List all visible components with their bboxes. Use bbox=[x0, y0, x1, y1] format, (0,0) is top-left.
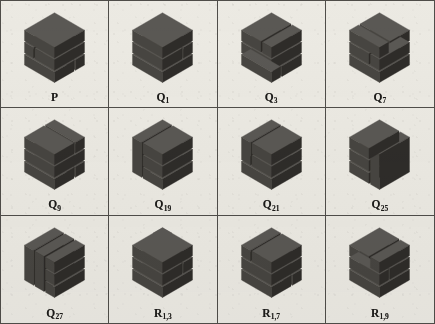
block-assembly-icon bbox=[326, 108, 434, 199]
block-assembly-icon bbox=[218, 1, 325, 92]
block-assembly-svg bbox=[238, 9, 305, 86]
label-subscript: 27 bbox=[55, 312, 63, 321]
grid-cell-p: P bbox=[1, 1, 109, 108]
label-subscript: 9 bbox=[57, 204, 61, 213]
label-base: Q bbox=[263, 198, 272, 210]
cell-label-q27: Q27 bbox=[46, 308, 63, 324]
block-assembly-svg bbox=[346, 224, 413, 301]
grid-cell-q27: Q27 bbox=[1, 216, 109, 323]
label-base: Q bbox=[155, 198, 164, 210]
label-subscript: 1,7 bbox=[271, 312, 280, 321]
grid-cell-r1-9: R1,9 bbox=[326, 216, 434, 323]
figure-sheet: PQ1Q3Q7Q9Q19Q21Q25Q27R1,3R1,7R1,9 bbox=[0, 0, 435, 324]
label-subscript: 1 bbox=[166, 96, 170, 105]
label-subscript: 21 bbox=[272, 204, 280, 213]
label-base: Q bbox=[372, 198, 381, 210]
label-subscript: 7 bbox=[383, 96, 387, 105]
block-assembly-svg bbox=[21, 9, 88, 86]
block-assembly-svg bbox=[21, 116, 88, 193]
label-subscript: 3 bbox=[274, 96, 278, 105]
cell-label-q9: Q9 bbox=[48, 199, 61, 215]
cell-label-q25: Q25 bbox=[372, 199, 389, 215]
label-subscript: 25 bbox=[381, 204, 389, 213]
block-assembly-svg bbox=[129, 224, 196, 301]
block-assembly-icon bbox=[326, 216, 434, 308]
grid-cell-q9: Q9 bbox=[1, 108, 109, 215]
block-assembly-svg bbox=[238, 116, 305, 193]
cell-label-q21: Q21 bbox=[263, 199, 280, 215]
cell-label-p: P bbox=[51, 92, 58, 108]
label-subscript: 1,3 bbox=[162, 312, 171, 321]
block-assembly-icon bbox=[109, 216, 216, 308]
block-assembly-icon bbox=[109, 108, 216, 199]
grid-cell-q1: Q1 bbox=[109, 1, 217, 108]
block-assembly-icon bbox=[218, 216, 325, 308]
label-subscript: 1,9 bbox=[379, 312, 388, 321]
grid-cell-q21: Q21 bbox=[218, 108, 326, 215]
cell-label-r1-3: R1,3 bbox=[154, 308, 172, 324]
cell-label-r1-9: R1,9 bbox=[371, 308, 389, 324]
block-assembly-svg bbox=[346, 9, 413, 86]
block-assembly-svg bbox=[346, 116, 413, 193]
cell-label-q19: Q19 bbox=[155, 199, 172, 215]
grid-cell-q19: Q19 bbox=[109, 108, 217, 215]
block-assembly-icon bbox=[1, 108, 108, 199]
cell-label-q1: Q1 bbox=[156, 92, 169, 108]
label-base: Q bbox=[48, 198, 57, 210]
label-base: P bbox=[51, 91, 58, 103]
grid-cell-r1-7: R1,7 bbox=[218, 216, 326, 323]
block-assembly-svg bbox=[21, 224, 88, 301]
grid-cell-q3: Q3 bbox=[218, 1, 326, 108]
cell-label-q3: Q3 bbox=[265, 92, 278, 108]
block-assembly-icon bbox=[218, 108, 325, 199]
block-assembly-svg bbox=[238, 224, 305, 301]
block-assembly-icon bbox=[1, 216, 108, 308]
block-assembly-icon bbox=[1, 1, 108, 92]
grid-cell-q25: Q25 bbox=[326, 108, 434, 215]
label-base: Q bbox=[265, 91, 274, 103]
label-base: R bbox=[262, 307, 271, 319]
cell-label-q7: Q7 bbox=[373, 92, 386, 108]
block-assembly-svg bbox=[129, 116, 196, 193]
block-assembly-icon bbox=[326, 1, 434, 92]
label-base: Q bbox=[156, 91, 165, 103]
cell-label-r1-7: R1,7 bbox=[262, 308, 280, 324]
block-assembly-svg bbox=[129, 9, 196, 86]
grid-cell-r1-3: R1,3 bbox=[109, 216, 217, 323]
label-subscript: 19 bbox=[164, 204, 172, 213]
block-assembly-grid: PQ1Q3Q7Q9Q19Q21Q25Q27R1,3R1,7R1,9 bbox=[0, 0, 435, 324]
block-assembly-icon bbox=[109, 1, 216, 92]
grid-cell-q7: Q7 bbox=[326, 1, 434, 108]
label-base: Q bbox=[373, 91, 382, 103]
